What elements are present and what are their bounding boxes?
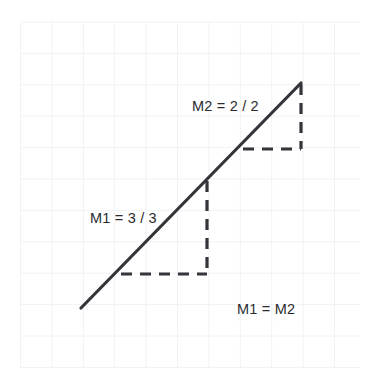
m2-slope-label: M2 = 2 / 2 [192, 98, 259, 114]
slope-diagram: M2 = 2 / 2M1 = 3 / 3M1 = M2 [0, 0, 375, 390]
figure-canvas: M2 = 2 / 2M1 = 3 / 3M1 = M2 [0, 0, 375, 390]
canvas-background [0, 0, 375, 390]
m1-slope-label: M1 = 3 / 3 [90, 210, 157, 226]
equality-label: M1 = M2 [237, 301, 295, 317]
